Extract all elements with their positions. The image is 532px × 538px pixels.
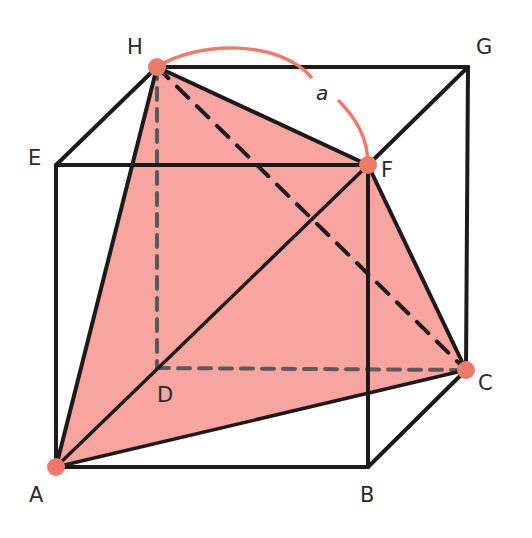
vertex-label-C: C [478,371,493,395]
vertex-dot-H [148,58,166,76]
cube-edge-FG [368,67,468,165]
vertex-label-F: F [381,158,393,182]
vertex-dot-C [457,361,475,379]
edge-length-arc [157,48,312,78]
vertex-dot-F [359,156,377,174]
arc-label-a: a [316,81,328,105]
vertex-label-G: G [476,35,492,59]
cube-edge-CG [466,67,468,370]
vertex-label-H: H [127,35,143,59]
vertex-label-A: A [29,483,44,507]
vertex-label-D: D [157,383,173,407]
hidden-edge-DC [157,368,466,370]
vertex-label-B: B [360,483,374,507]
vertex-dot-A [47,458,65,476]
vertex-label-E: E [28,146,41,170]
cube-diagram: a H G E F D C A B [0,0,532,538]
